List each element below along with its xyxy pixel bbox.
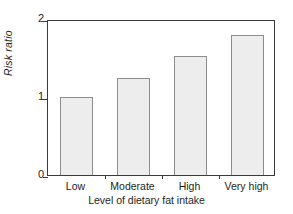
- x-axis-category-labels: LowModerateHighVery high: [47, 180, 275, 194]
- y-axis-title: Risk ratio: [2, 62, 14, 76]
- bar: [174, 56, 207, 175]
- x-category-label: Low: [66, 180, 85, 193]
- bar-series: [48, 21, 274, 175]
- y-tick-label: 0: [38, 169, 44, 180]
- x-category-label: High: [179, 180, 201, 193]
- x-tick-mark: [219, 175, 220, 179]
- x-tick-mark: [105, 175, 106, 179]
- risk-ratio-bar-chart: Risk ratio 012 LowModerateHighVery high …: [0, 0, 293, 214]
- plot-area: 012: [47, 20, 275, 176]
- x-tick-mark: [162, 175, 163, 179]
- bar: [60, 97, 93, 175]
- x-axis-title: Level of dietary fat intake: [0, 194, 293, 207]
- x-category-label: Very high: [225, 180, 269, 193]
- bar: [231, 35, 264, 175]
- x-category-label: Moderate: [110, 180, 154, 193]
- y-tick-label: 2: [38, 13, 44, 24]
- bar: [117, 78, 150, 176]
- y-tick-label: 1: [38, 91, 44, 102]
